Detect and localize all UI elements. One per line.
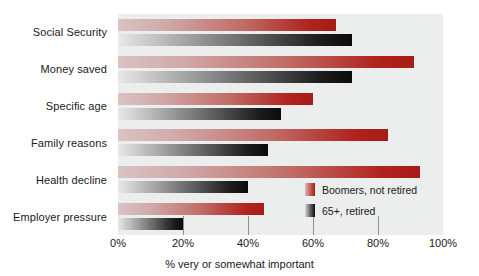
x-tick-label: 60% — [302, 237, 324, 249]
bar-retired — [118, 108, 281, 120]
bar-boomers — [118, 203, 264, 215]
bar-boomers — [118, 129, 388, 141]
legend-label: 65+, retired — [322, 205, 375, 217]
plot-area: Boomers, not retired 65+, retired — [118, 14, 443, 235]
category-label: Employer pressure — [13, 211, 107, 223]
bar-group — [118, 51, 443, 88]
bar-boomers — [118, 166, 420, 178]
x-tick-label: 20% — [172, 237, 194, 249]
bar-retired — [118, 71, 352, 83]
x-tick-label: 80% — [367, 237, 389, 249]
category-label: Social Security — [33, 26, 107, 38]
x-axis-title: % very or somewhat important — [0, 258, 479, 270]
bar-retired — [118, 144, 268, 156]
category-label-row: Social Security — [0, 14, 113, 51]
legend-swatch-icon — [305, 204, 315, 217]
category-label-row: Health decline — [0, 161, 113, 198]
category-label: Health decline — [36, 174, 107, 186]
x-tick-label: 40% — [237, 237, 259, 249]
bar-boomers — [118, 56, 414, 68]
legend-item-retired: 65+, retired — [305, 204, 417, 217]
category-label: Money saved — [40, 63, 107, 75]
bar-boomers — [118, 93, 313, 105]
bar-group — [118, 88, 443, 125]
category-axis: Social Security Money saved Specific age… — [0, 14, 113, 235]
category-label-row: Money saved — [0, 51, 113, 88]
bar-boomers — [118, 19, 336, 31]
bar-chart: Social Security Money saved Specific age… — [0, 0, 479, 276]
category-label-row: Specific age — [0, 88, 113, 125]
bar-retired — [118, 181, 248, 193]
category-label: Specific age — [46, 100, 107, 112]
category-label: Family reasons — [31, 137, 107, 149]
bar-group — [118, 124, 443, 161]
x-axis-tick-labels: 0%20%40%60%80%100% — [118, 237, 443, 253]
legend-item-boomers: Boomers, not retired — [305, 183, 417, 196]
legend-label: Boomers, not retired — [322, 184, 417, 196]
x-tick-label: 0% — [110, 237, 126, 249]
category-label-row: Family reasons — [0, 124, 113, 161]
x-tick-label: 100% — [429, 237, 457, 249]
bar-group — [118, 14, 443, 51]
legend: Boomers, not retired 65+, retired — [305, 183, 417, 217]
category-label-row: Employer pressure — [0, 198, 113, 235]
legend-swatch-icon — [305, 183, 315, 196]
bar-retired — [118, 34, 352, 46]
bar-retired — [118, 218, 183, 230]
